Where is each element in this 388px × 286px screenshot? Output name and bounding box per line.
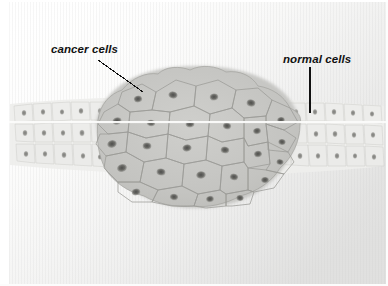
scan-seam: [8, 121, 386, 123]
tissue-diagram: cancer cells normal cells: [0, 0, 388, 286]
figure-root: cancer cells normal cells: [0, 0, 388, 286]
cancer-cells-label: cancer cells: [51, 43, 118, 55]
normal-cells-label: normal cells: [283, 53, 351, 65]
